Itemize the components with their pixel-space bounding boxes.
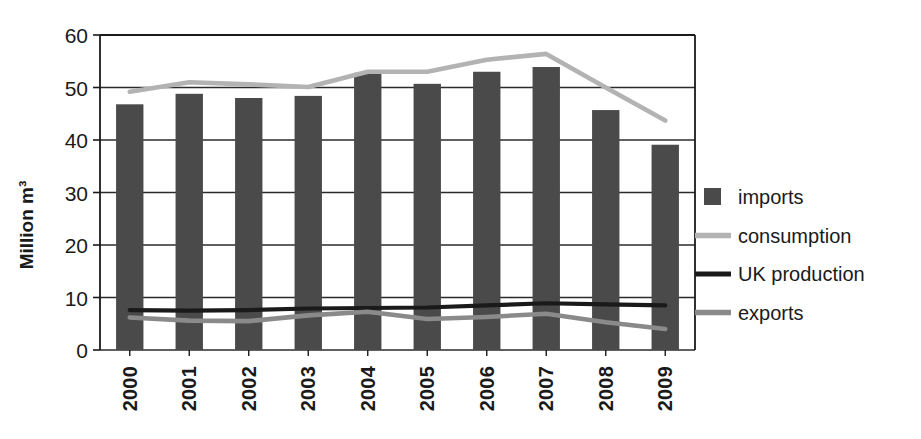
bar <box>295 96 322 350</box>
y-tick-label: 10 <box>65 287 88 310</box>
x-tick-label: 2008 <box>595 366 617 411</box>
bar <box>592 110 619 350</box>
x-tick-label: 2004 <box>357 365 379 411</box>
chart-figure: 0102030405060 Million m³ 200020012002200… <box>0 0 921 439</box>
bar <box>473 72 500 350</box>
bar <box>652 145 679 350</box>
x-axis-ticks: 2000200120022003200420052006200720082009 <box>119 350 677 411</box>
x-tick-label: 2009 <box>654 366 676 411</box>
x-tick-label: 2001 <box>178 366 200 411</box>
y-tick-label: 60 <box>65 24 88 47</box>
bar <box>533 67 560 350</box>
x-tick-label: 2002 <box>238 366 260 411</box>
x-tick-label: 2006 <box>476 366 498 411</box>
y-tick-label: 0 <box>76 339 88 362</box>
x-tick-label: 2005 <box>416 366 438 411</box>
y-tick-label: 40 <box>65 129 88 152</box>
y-axis-title-group: Million m³ <box>16 181 37 270</box>
y-axis-ticks: 0102030405060 <box>65 24 100 362</box>
line-exports <box>130 312 666 329</box>
y-tick-label: 20 <box>65 234 88 257</box>
legend-label: UK production <box>738 263 865 285</box>
legend-swatch-square <box>704 188 721 205</box>
bar <box>414 84 441 350</box>
legend-label: imports <box>738 186 804 208</box>
y-tick-label: 50 <box>65 77 88 100</box>
bar <box>116 104 143 350</box>
line-uk-production <box>130 303 666 310</box>
x-tick-label: 2007 <box>535 366 557 411</box>
x-tick-label: 2000 <box>119 366 141 411</box>
y-axis-title: Million m³ <box>16 181 37 270</box>
chart-canvas: 0102030405060 Million m³ 200020012002200… <box>0 0 921 439</box>
legend-label: consumption <box>738 225 851 247</box>
x-tick-label: 2003 <box>297 366 319 411</box>
chart-legend: importsconsumptionUK productionexports <box>695 186 865 324</box>
y-tick-label: 30 <box>65 182 88 205</box>
legend-label: exports <box>738 302 804 324</box>
line-series-group <box>130 54 666 329</box>
